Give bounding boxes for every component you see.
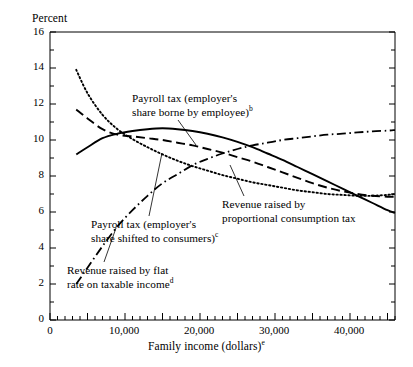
chart-plot-area (0, 0, 413, 367)
chart-figure: Percent Family income (dollars)e 16 14 1… (0, 0, 413, 367)
annotation-leader-lines (104, 120, 244, 262)
series-line-2 (76, 109, 395, 196)
leader-payroll-borne-by-employee (178, 120, 196, 145)
series-line-1 (76, 130, 395, 284)
series-line-0 (76, 128, 395, 213)
leader-flat-rate-taxable-income (104, 228, 116, 262)
